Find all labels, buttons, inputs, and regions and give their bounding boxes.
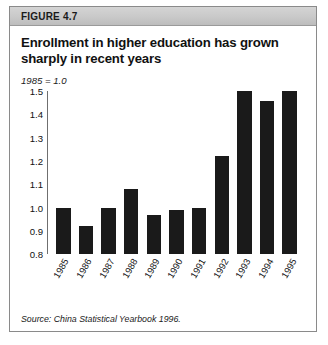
chart-title: Enrollment in higher education has grown… <box>21 35 305 67</box>
bar <box>56 208 70 255</box>
bar-slot <box>233 91 256 254</box>
bar <box>147 215 161 255</box>
bar <box>169 210 183 254</box>
x-slot: 1985 <box>51 255 74 285</box>
bar <box>101 208 115 255</box>
x-tick-label: 1989 <box>143 257 162 280</box>
bar <box>215 156 229 254</box>
bar-slot <box>278 91 301 254</box>
bar-slot <box>143 91 166 254</box>
bar-slot <box>210 91 233 254</box>
bar-slot <box>120 91 143 254</box>
y-tick-label: 1.3 <box>30 132 43 143</box>
x-tick-label: 1992 <box>211 257 230 280</box>
x-slot: 1989 <box>142 255 165 285</box>
chart-source: Source: China Statistical Yearbook 1996. <box>21 314 181 324</box>
bar-slot <box>165 91 188 254</box>
y-tick-label: 0.8 <box>30 249 43 260</box>
plot-area <box>47 91 303 254</box>
figure-label: FIGURE 4.7 <box>21 11 77 22</box>
bar-slot <box>97 91 120 254</box>
chart-subtitle: 1985 = 1.0 <box>21 75 305 86</box>
x-tick-label: 1995 <box>279 257 298 280</box>
y-tick-label: 1.1 <box>30 179 43 190</box>
bar <box>260 101 274 255</box>
figure-container: FIGURE 4.7 Enrollment in higher educatio… <box>9 6 317 332</box>
x-slot: 1986 <box>74 255 97 285</box>
x-slot: 1995 <box>278 255 301 285</box>
y-tick-label: 1.5 <box>30 86 43 97</box>
bar-slot <box>52 91 75 254</box>
bar-series <box>49 91 303 254</box>
bar-slot <box>256 91 279 254</box>
x-slot: 1990 <box>165 255 188 285</box>
x-tick-label: 1987 <box>97 257 116 280</box>
x-tick-label: 1986 <box>75 257 94 280</box>
bar <box>282 91 296 254</box>
bar-slot <box>188 91 211 254</box>
x-tick-label: 1985 <box>52 257 71 280</box>
bar <box>79 226 93 254</box>
x-tick-label: 1988 <box>120 257 139 280</box>
y-tick-label: 1.0 <box>30 202 43 213</box>
x-slot: 1991 <box>187 255 210 285</box>
x-slot: 1992 <box>210 255 233 285</box>
x-axis: 1985198619871988198919901991199219931994… <box>48 255 303 285</box>
y-tick-label: 1.4 <box>30 109 43 120</box>
x-tick-label: 1993 <box>234 257 253 280</box>
chart-plot: 0.80.91.01.11.21.31.41.5 198519861987198… <box>21 91 305 284</box>
bar-slot <box>75 91 98 254</box>
figure-header: FIGURE 4.7 <box>10 7 316 26</box>
x-tick-label: 1990 <box>166 257 185 280</box>
x-tick-label: 1991 <box>188 257 207 280</box>
y-tick-label: 1.2 <box>30 156 43 167</box>
bar <box>237 91 251 254</box>
figure-body: Enrollment in higher education has grown… <box>10 35 316 284</box>
x-slot: 1993 <box>233 255 256 285</box>
y-axis: 0.80.91.01.11.21.31.41.5 <box>21 91 45 254</box>
x-slot: 1988 <box>119 255 142 285</box>
x-slot: 1994 <box>256 255 279 285</box>
bar <box>124 189 138 254</box>
x-tick-label: 1994 <box>257 257 276 280</box>
y-tick-label: 0.9 <box>30 225 43 236</box>
bar <box>192 208 206 255</box>
x-slot: 1987 <box>96 255 119 285</box>
